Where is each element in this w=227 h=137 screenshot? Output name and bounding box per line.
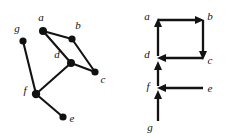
node-label-c-directed: c (208, 54, 213, 66)
node-f-dot (32, 90, 40, 98)
node-c-dot (91, 68, 98, 75)
node-label-a-directed: a (144, 10, 150, 22)
node-label-b-directed: b (207, 10, 213, 22)
node-label-g: g (14, 22, 20, 34)
node-label-e: e (70, 112, 75, 124)
node-label-g-directed: g (147, 121, 153, 133)
graph-figure: a b c d e f g (0, 0, 227, 137)
node-label-d: d (54, 48, 60, 60)
node-e-dot (59, 113, 66, 120)
node-d-dot (67, 59, 75, 67)
node-label-b: b (75, 19, 81, 31)
node-b-dot (68, 35, 75, 42)
node-label-e-directed: e (208, 82, 213, 94)
node-label-a: a (38, 11, 44, 23)
node-a-dot (39, 27, 47, 35)
node-g-dot (19, 37, 26, 44)
node-label-c: c (101, 73, 106, 85)
node-label-d-directed: d (144, 48, 150, 60)
